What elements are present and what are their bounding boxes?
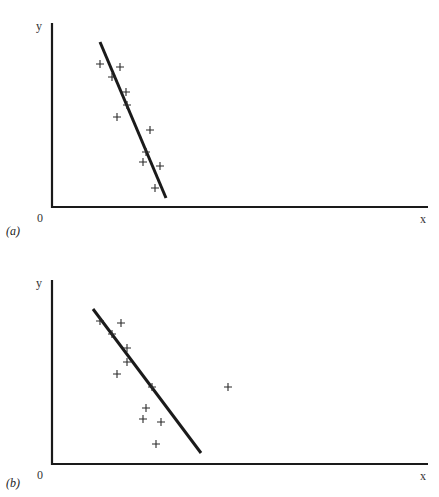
- axes-a: [52, 23, 428, 207]
- data-point: [139, 158, 147, 166]
- data-point: [96, 60, 104, 68]
- data-point: [146, 126, 154, 134]
- panel-label-b: (b): [6, 476, 20, 490]
- data-point: [151, 184, 159, 192]
- data-point: [113, 370, 121, 378]
- data-point: [152, 440, 160, 448]
- x-axis-label-a: x: [420, 212, 426, 226]
- panel-a: y 0 x (a): [6, 19, 428, 238]
- outlier-point: [224, 383, 232, 391]
- y-axis-label-b: y: [36, 276, 42, 290]
- y-axis-label-a: y: [36, 19, 42, 33]
- regression-line-b: [93, 309, 201, 453]
- regression-line-a: [100, 42, 166, 198]
- data-point: [142, 404, 150, 412]
- origin-label-b: 0: [37, 468, 43, 482]
- data-point: [113, 113, 121, 121]
- data-point: [139, 415, 147, 423]
- figure: y 0 x (a) y 0 x (b): [0, 0, 439, 497]
- data-point: [156, 162, 164, 170]
- axes-b: [52, 280, 428, 464]
- data-point: [157, 418, 165, 426]
- data-points-b: [96, 317, 232, 448]
- panel-label-a: (a): [6, 224, 20, 238]
- x-axis-label-b: x: [420, 469, 426, 483]
- origin-label-a: 0: [37, 211, 43, 225]
- data-point: [116, 63, 124, 71]
- panel-b: y 0 x (b): [6, 276, 428, 490]
- data-point: [117, 319, 125, 327]
